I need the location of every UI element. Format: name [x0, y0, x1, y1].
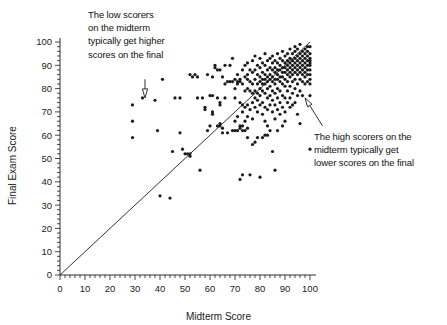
scatter-point: [178, 131, 181, 134]
scatter-point: [288, 71, 291, 74]
scatter-point: [266, 68, 269, 71]
scatter-point: [236, 73, 239, 76]
scatter-point: [253, 78, 256, 81]
scatter-point: [283, 110, 286, 113]
scatter-point: [206, 73, 209, 76]
scatter-point: [298, 66, 301, 69]
scatter-point: [243, 64, 246, 67]
scatter-point: [206, 129, 209, 132]
scatter-point: [251, 82, 254, 85]
scatter-point: [248, 108, 251, 111]
scatter-point: [223, 82, 226, 85]
scatter-point: [268, 78, 271, 81]
scatter-point: [276, 73, 279, 76]
scatter-point: [233, 120, 236, 123]
scatter-point: [251, 143, 254, 146]
scatter-point: [238, 178, 241, 181]
scatter-point: [291, 73, 294, 76]
scatter-point: [253, 89, 256, 92]
scatter-point: [188, 155, 191, 158]
scatter-point: [256, 92, 259, 95]
scatter-point: [298, 71, 301, 74]
scatter-point: [218, 124, 221, 127]
scatter-point: [271, 80, 274, 83]
scatter-point: [301, 54, 304, 57]
x-tick-label: 60: [205, 283, 216, 294]
scatter-point: [173, 96, 176, 99]
scatter-point: [276, 96, 279, 99]
scatter-point: [291, 59, 294, 62]
scatter-point: [261, 101, 264, 104]
scatter-point: [276, 52, 279, 55]
y-tick-label: 40: [41, 176, 52, 187]
scatter-point: [246, 78, 249, 81]
x-tick-label: 40: [155, 283, 166, 294]
scatter-point: [293, 57, 296, 60]
scatter-point: [288, 47, 291, 50]
scatter-point: [283, 66, 286, 69]
scatter-point: [303, 57, 306, 60]
scatter-point: [308, 82, 311, 85]
scatter-point: [293, 50, 296, 53]
scatter-point: [296, 73, 299, 76]
scatter-point: [273, 103, 276, 106]
y-tick-label: 0: [47, 269, 52, 280]
scatter-point: [241, 103, 244, 106]
x-tick-label: 70: [230, 283, 241, 294]
scatter-point: [266, 124, 269, 127]
scatter-point: [291, 68, 294, 71]
scatter-point: [156, 129, 159, 132]
scatter-point: [308, 52, 311, 55]
scatter-point: [276, 78, 279, 81]
scatter-point: [233, 129, 236, 132]
y-tick-label: 80: [41, 83, 52, 94]
scatter-point: [246, 61, 249, 64]
scatter-point: [228, 64, 231, 67]
scatter-point: [298, 78, 301, 81]
scatter-point: [286, 101, 289, 104]
y-tick-label: 10: [41, 246, 52, 257]
scatter-point: [256, 73, 259, 76]
scatter-point: [298, 57, 301, 60]
scatter-point: [281, 82, 284, 85]
scatter-point: [278, 89, 281, 92]
scatter-point: [291, 92, 294, 95]
scatter-point: [131, 120, 134, 123]
scatter-point: [273, 82, 276, 85]
scatter-point: [221, 127, 224, 130]
scatter-point: [261, 113, 264, 116]
scatter-point: [198, 169, 201, 172]
scatter-point: [288, 96, 291, 99]
scatter-point: [273, 59, 276, 62]
scatter-point: [301, 50, 304, 53]
scatter-point: [278, 64, 281, 67]
scatter-point: [293, 71, 296, 74]
scatter-point: [178, 96, 181, 99]
scatter-point: [238, 80, 241, 83]
scatter-point: [263, 64, 266, 67]
scatter-point: [211, 113, 214, 116]
scatter-point: [168, 197, 171, 200]
scatter-point: [261, 61, 264, 64]
scatter-point: [286, 64, 289, 67]
scatter-point: [246, 136, 249, 139]
scatter-point: [253, 54, 256, 57]
scatter-point: [233, 78, 236, 81]
scatter-point: [293, 66, 296, 69]
scatter-point: [268, 66, 271, 69]
scatter-point: [131, 136, 134, 139]
scatter-point: [263, 106, 266, 109]
scatter-point: [288, 85, 291, 88]
scatter-point: [218, 103, 221, 106]
scatter-point: [298, 61, 301, 64]
scatter-point: [203, 108, 206, 111]
scatter-point: [308, 68, 311, 71]
scatter-point: [296, 59, 299, 62]
scatter-point: [291, 52, 294, 55]
scatter-point: [188, 73, 191, 76]
scatter-point: [258, 80, 261, 83]
scatter-point: [233, 87, 236, 90]
scatter-point: [286, 52, 289, 55]
scatter-point: [281, 75, 284, 78]
scatter-point: [256, 136, 259, 139]
